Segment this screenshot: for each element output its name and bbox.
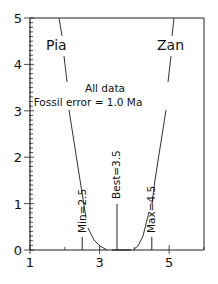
y-tick-label: 3 [14, 104, 22, 119]
curve-pia [88, 228, 107, 250]
curve-zan [168, 56, 171, 82]
header-line-2: Fossil error = 1.0 Ma [34, 96, 143, 108]
x-tick-label: 3 [95, 255, 103, 270]
max-label: Max=4.5 [145, 186, 157, 233]
y-tick-label: 2 [14, 150, 22, 165]
min-label: Min=2.5 [76, 189, 88, 233]
y-tick-label: 1 [14, 197, 22, 212]
y-axis: 012345 [14, 11, 34, 258]
chart: 012345 135 Pia Zan All data Fossil error… [0, 0, 218, 284]
header-line-1: All data [85, 82, 125, 94]
y-tick-label: 5 [14, 11, 22, 26]
right-series-label: Zan [157, 37, 184, 53]
curve-pia [64, 56, 67, 82]
curve-pia [59, 18, 62, 36]
x-axis: 135 [26, 245, 204, 270]
y-tick-label: 4 [14, 57, 22, 72]
y-tick-label: 0 [14, 243, 22, 258]
x-tick-label: 1 [26, 255, 34, 270]
best-label: Best=3.5 [110, 150, 122, 199]
curve-zan [172, 18, 174, 36]
markers [82, 204, 152, 250]
left-series-label: Pia [46, 37, 67, 53]
x-tick-label: 5 [165, 255, 173, 270]
